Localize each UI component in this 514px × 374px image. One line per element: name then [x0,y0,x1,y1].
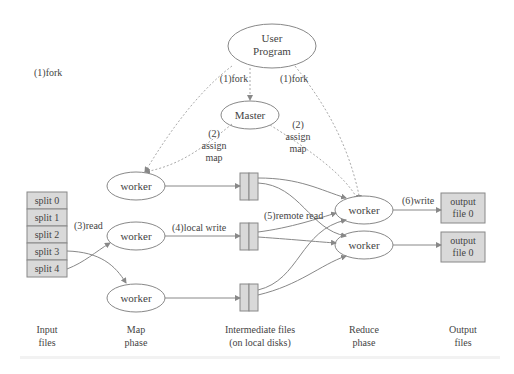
svg-text:split 0: split 0 [35,195,60,206]
svg-text:map: map [205,152,222,163]
svg-text:(1)fork: (1)fork [220,73,248,85]
intermediate-files [240,173,258,311]
input-splits: split 0 split 1 split 2 split 3 split 4 [27,192,67,277]
svg-text:split 3: split 3 [35,246,60,257]
svg-text:(1)fork: (1)fork [280,73,308,85]
svg-text:files: files [454,337,471,348]
svg-text:assign: assign [202,140,227,151]
svg-text:(4)local write: (4)local write [172,222,227,234]
svg-text:Reduce: Reduce [349,324,380,335]
svg-text:Master: Master [235,109,266,121]
svg-text:phase: phase [353,337,376,348]
svg-text:map: map [289,143,306,154]
svg-text:(5)remote read: (5)remote read [264,210,323,222]
svg-text:(2): (2) [292,119,304,131]
svg-text:worker: worker [120,230,151,242]
local-write-edges [165,186,240,298]
svg-text:(1)fork: (1)fork [34,67,62,79]
svg-text:output: output [450,196,476,207]
svg-text:(on local disks): (on local disks) [229,337,291,349]
svg-text:worker: worker [120,292,151,304]
remote-read-edges [258,178,346,295]
svg-text:Input: Input [36,324,57,335]
svg-text:(2): (2) [208,128,220,140]
svg-text:(3)read: (3)read [74,220,103,232]
user-program-node: User Program [228,24,316,68]
svg-text:worker: worker [348,239,379,251]
svg-text:output: output [450,235,476,246]
phase-labels: Input files Map phase Intermediate files… [36,324,477,349]
svg-text:split 1: split 1 [35,212,60,223]
svg-text:file 0: file 0 [453,208,474,219]
svg-text:files: files [38,337,55,348]
svg-text:(6)write: (6)write [402,195,435,207]
svg-text:phase: phase [125,337,148,348]
reduce-workers: worker worker [335,196,393,259]
svg-text:Program: Program [253,45,291,57]
mapreduce-diagram: User Program Master (1)fork (1)fork (1)f… [0,0,514,374]
write-edges [393,210,441,245]
svg-text:Map: Map [127,324,145,335]
output-files: output file 0 output file 0 [441,193,485,262]
svg-text:split 4: split 4 [35,263,60,274]
svg-text:assign: assign [286,131,311,142]
svg-text:Output: Output [449,324,477,335]
svg-text:file 0: file 0 [453,247,474,258]
svg-text:Intermediate files: Intermediate files [225,324,295,335]
svg-text:worker: worker [120,180,151,192]
read-edges [67,243,126,283]
svg-text:worker: worker [348,204,379,216]
map-workers: worker worker worker [107,172,165,312]
svg-text:split 2: split 2 [35,229,60,240]
svg-text:User: User [262,32,283,44]
